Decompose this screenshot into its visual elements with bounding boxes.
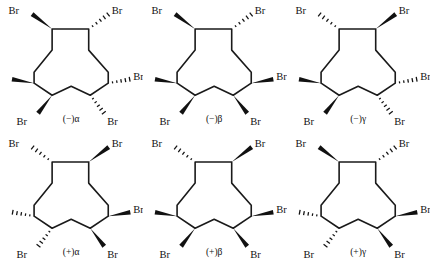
substituent-label-bottom-right: Br (107, 116, 118, 127)
substituent-label-bottom-right: Br (394, 249, 405, 260)
cyclododecane-ring (34, 29, 108, 95)
isomer-label: (+)β (206, 248, 223, 259)
bond-wedge-top-left (31, 12, 52, 29)
bond-wedge-bottom-left (323, 95, 339, 114)
structure-plus-beta: BrBrBrBrBrBr(+)β (143, 133, 286, 266)
bond-hash-top-right (92, 13, 110, 27)
bond-wedge-middle-left (155, 77, 177, 83)
cyclododecane-ring (177, 29, 251, 95)
substituent-label-top-left: Br (295, 5, 306, 16)
structure-drawing: BrBrBrBrBrBr(+)α (0, 133, 143, 266)
bond-hash-top-right (235, 13, 253, 27)
substituent-label-top-right: Br (255, 139, 266, 150)
bond-hash-top-left (31, 146, 49, 160)
cyclododecane-ring (34, 162, 108, 228)
substituent-label-top-left: Br (152, 139, 163, 150)
bond-wedge-middle-left (12, 77, 34, 83)
substituent-label-top-left: Br (295, 139, 306, 150)
bond-wedge-top-left (174, 12, 195, 29)
substituent-label-middle-right: Br (420, 71, 430, 82)
substituent-label-bottom-right: Br (251, 116, 262, 127)
substituent-label-top-left: Br (152, 5, 163, 16)
bond-hash-bottom-left (323, 231, 337, 247)
structure-grid: BrBrBrBrBrBr(−)αBrBrBrBrBrBr(−)βBrBrBrBr… (0, 0, 430, 266)
bond-wedge-bottom-right (234, 95, 250, 114)
substituent-label-bottom-left: Br (17, 249, 28, 260)
isomer-label: (+)γ (350, 248, 366, 259)
substituent-label-middle-right: Br (133, 71, 143, 82)
bond-wedge-top-right (232, 145, 253, 162)
substituent-label-top-right: Br (255, 5, 266, 16)
bond-wedge-middle-right (252, 77, 274, 83)
bond-hash-top-right (379, 146, 397, 160)
isomer-label: (+)α (63, 248, 80, 259)
bond-wedge-top-right (89, 145, 110, 162)
substituent-label-top-left: Br (9, 139, 20, 150)
substituent-label-bottom-right: Br (394, 116, 405, 127)
bond-wedge-middle-right (395, 210, 417, 216)
substituent-label-bottom-right: Br (107, 249, 118, 260)
substituent-label-top-right: Br (398, 5, 409, 16)
substituent-label-bottom-left: Br (17, 116, 28, 127)
substituent-label-top-right: Br (112, 5, 123, 16)
bond-hash-middle-right (112, 77, 130, 84)
structure-drawing: BrBrBrBrBrBr(+)β (143, 133, 286, 266)
structure-drawing: BrBrBrBrBrBr(−)β (143, 0, 286, 133)
bond-hash-bottom-right (92, 98, 106, 114)
bond-hash-middle-left (12, 210, 30, 217)
substituent-label-middle-right: Br (133, 204, 143, 215)
bond-wedge-middle-right (252, 210, 274, 216)
bond-wedge-bottom-left (180, 95, 196, 114)
substituent-label-bottom-left: Br (303, 116, 314, 127)
substituent-label-middle-right: Br (420, 204, 430, 215)
bond-hash-top-left (318, 13, 336, 27)
substituent-label-bottom-left: Br (303, 249, 314, 260)
cyclododecane-ring (177, 162, 251, 228)
isomer-label: (−)β (206, 114, 223, 125)
bond-wedge-bottom-left (180, 229, 196, 248)
structure-drawing: BrBrBrBrBrBr(−)α (0, 0, 143, 133)
bond-wedge-top-right (375, 12, 396, 29)
bond-hash-middle-right (399, 77, 417, 84)
substituent-label-bottom-left: Br (160, 249, 171, 260)
structure-drawing: BrBrBrBrBrBr(−)γ (287, 0, 430, 133)
cyclododecane-ring (321, 29, 395, 95)
bond-wedge-bottom-left (36, 95, 52, 114)
bond-wedge-bottom-right (234, 229, 250, 248)
bond-wedge-middle-left (155, 210, 177, 216)
bond-wedge-bottom-right (90, 229, 106, 248)
structure-minus-gamma: BrBrBrBrBrBr(−)γ (287, 0, 430, 133)
bond-wedge-middle-right (108, 210, 130, 216)
substituent-label-bottom-left: Br (160, 116, 171, 127)
bond-wedge-top-left (317, 145, 338, 162)
bond-wedge-middle-left (298, 77, 320, 83)
cyclododecane-ring (321, 162, 395, 228)
bond-hash-bottom-right (379, 98, 393, 114)
bond-hash-middle-left (299, 210, 317, 217)
structure-plus-gamma: BrBrBrBrBrBr(+)γ (287, 133, 430, 266)
bond-hash-top-left (175, 146, 193, 160)
bond-wedge-bottom-right (377, 229, 393, 248)
substituent-label-top-right: Br (112, 139, 123, 150)
structure-drawing: BrBrBrBrBrBr(+)γ (287, 133, 430, 266)
bond-hash-bottom-left (37, 231, 51, 247)
substituent-label-top-right: Br (398, 139, 409, 150)
structure-minus-alpha: BrBrBrBrBrBr(−)α (0, 0, 143, 133)
structure-plus-alpha: BrBrBrBrBrBr(+)α (0, 133, 143, 266)
isomer-label: (−)γ (350, 114, 366, 125)
substituent-label-bottom-right: Br (251, 249, 262, 260)
structure-minus-beta: BrBrBrBrBrBr(−)β (143, 0, 286, 133)
substituent-label-middle-right: Br (277, 71, 287, 82)
substituent-label-top-left: Br (9, 5, 20, 16)
substituent-label-middle-right: Br (277, 204, 287, 215)
isomer-label: (−)α (63, 114, 80, 125)
